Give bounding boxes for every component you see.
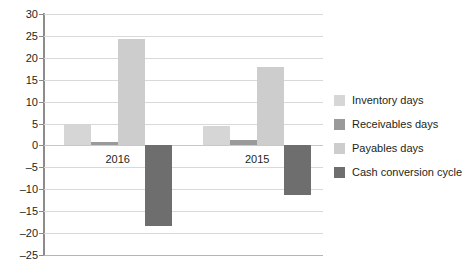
gridline — [44, 189, 323, 190]
y-axis-tick-label: 25 — [4, 30, 38, 41]
gridline — [44, 167, 323, 168]
y-axis-tick-label: –15 — [4, 206, 38, 217]
legend-label-payables-days: Payables days — [352, 143, 424, 154]
legend-swatch-receivables-days — [334, 119, 345, 130]
bar-chart: 302520151050–5–10–15–20–25 20162015 Inve… — [0, 0, 463, 268]
legend: Inventory days Receivables days Payables… — [334, 88, 462, 184]
bar — [118, 39, 145, 145]
y-axis-tick-label: –10 — [4, 184, 38, 195]
legend-swatch-payables-days — [334, 143, 345, 154]
y-axis-tick-label: 15 — [4, 74, 38, 85]
legend-item-payables-days[interactable]: Payables days — [334, 136, 462, 160]
y-axis-tick-label: 5 — [4, 118, 38, 129]
legend-label-receivables-days: Receivables days — [352, 119, 438, 130]
gridline — [44, 36, 323, 37]
bar — [64, 124, 91, 146]
category-label: 2015 — [191, 154, 323, 165]
legend-item-cash-conversion-cycle[interactable]: Cash conversion cycle — [334, 160, 462, 184]
plot-area: 20162015 — [44, 14, 323, 255]
legend-label-cash-conversion-cycle: Cash conversion cycle — [352, 167, 462, 178]
gridline — [44, 14, 323, 15]
legend-item-inventory-days[interactable]: Inventory days — [334, 88, 462, 112]
bar — [257, 67, 284, 145]
bar — [91, 142, 118, 145]
y-axis-tick-label: 0 — [4, 140, 38, 151]
gridline — [44, 233, 323, 234]
y-axis-tick-label: 30 — [4, 9, 38, 20]
y-axis-labels: 302520151050–5–10–15–20–25 — [0, 0, 38, 268]
gridline — [44, 58, 323, 59]
y-axis-tick-label: –5 — [4, 162, 38, 173]
y-axis-tick-label: 10 — [4, 96, 38, 107]
legend-item-receivables-days[interactable]: Receivables days — [334, 112, 462, 136]
bar — [203, 126, 230, 145]
gridline — [44, 145, 323, 146]
gridline — [44, 211, 323, 212]
y-axis-tick-label: –25 — [4, 250, 38, 261]
bar — [284, 145, 311, 195]
legend-swatch-inventory-days — [334, 95, 345, 106]
y-axis-tick-label: 20 — [4, 52, 38, 63]
legend-swatch-cash-conversion-cycle — [334, 167, 345, 178]
y-axis-tick-label: –20 — [4, 228, 38, 239]
bar — [230, 140, 257, 146]
legend-label-inventory-days: Inventory days — [352, 95, 424, 106]
gridline — [44, 255, 323, 256]
category-label: 2016 — [52, 154, 184, 165]
